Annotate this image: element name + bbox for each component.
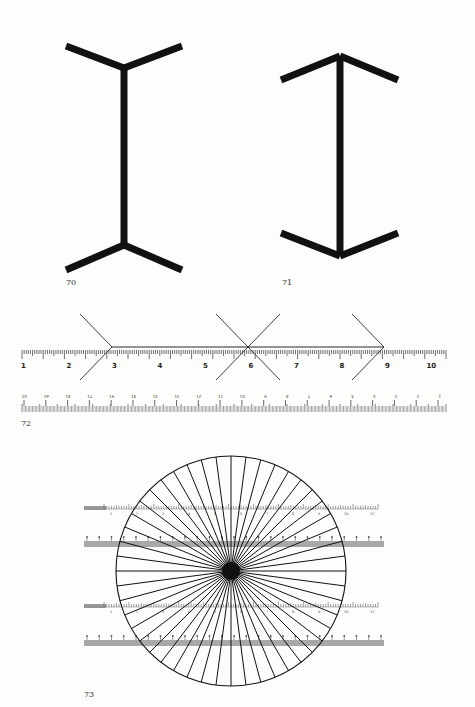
ruler-tick-dot <box>123 635 125 637</box>
ruler-tick-dot <box>160 635 162 637</box>
ruler-tick-dot <box>282 536 284 538</box>
ruler-tick-dot <box>307 635 309 637</box>
spoke-line <box>231 571 331 629</box>
ruler-label: 81 <box>65 394 71 399</box>
fin-line <box>248 314 280 347</box>
ruler-label: 3 <box>162 512 164 516</box>
ruler-label: 6 <box>329 394 332 399</box>
ruler-label: 9 <box>318 512 320 516</box>
ruler-tick-dot <box>380 536 382 538</box>
ruler-label: 2 <box>136 512 138 516</box>
fin-line <box>340 233 398 256</box>
ruler-tick-dot <box>86 635 88 637</box>
ruler-label: 6 <box>249 362 254 370</box>
ruler-tick-dot <box>343 635 345 637</box>
ruler-tick-dot <box>319 635 321 637</box>
fig73-figure: 12345678910111234567891011 <box>84 456 384 686</box>
ruler-tick-dot <box>356 635 358 637</box>
ruler-label: 7 <box>266 512 268 516</box>
fin-line <box>281 56 340 80</box>
spoke-line <box>174 471 232 571</box>
ruler-label: 10 <box>344 512 348 516</box>
ruler-tick-dot <box>135 536 137 538</box>
spoke-line <box>231 571 289 671</box>
ruler-tick-dot <box>86 536 88 538</box>
caption-fig73: 73 <box>84 690 94 699</box>
ruler-label: 3 <box>394 394 397 399</box>
fin-line <box>124 46 182 68</box>
ruler-label: 3 <box>112 362 117 370</box>
spoke-line <box>231 460 261 571</box>
spoke-line <box>201 460 231 571</box>
ruler-tick-dot <box>233 635 235 637</box>
fig70-figure <box>66 46 182 270</box>
fin-line <box>352 314 384 347</box>
ruler-label: 11 <box>370 610 374 614</box>
ruler-tick-dot <box>331 536 333 538</box>
ruler-label: 10 <box>427 362 437 370</box>
fin-line <box>66 245 124 270</box>
ruler-label: 4 <box>158 362 163 370</box>
ruler-label: 9 <box>264 394 267 399</box>
fin-line <box>281 233 340 256</box>
spoke-line <box>131 571 231 629</box>
ruler-tick-dot <box>233 536 235 538</box>
spoke-line <box>231 571 342 601</box>
ruler-tick-dot <box>111 635 113 637</box>
ruler-tick-dot <box>331 635 333 637</box>
ruler-label: 5 <box>203 362 208 370</box>
ruler-label: 6 <box>240 512 242 516</box>
ruler-tick-dot <box>319 536 321 538</box>
ruler-band <box>84 640 384 646</box>
ruler-label: 91 <box>109 394 115 399</box>
hub-dot <box>222 562 240 580</box>
ruler-label: 7 <box>294 362 299 370</box>
ruler-tick-dot <box>282 635 284 637</box>
fig71-figure <box>281 56 398 256</box>
ruler-tick-dot <box>184 635 186 637</box>
ruler-end-band <box>84 506 106 510</box>
ruler-tick-dot <box>123 536 125 538</box>
spoke-line <box>231 471 289 571</box>
ruler-tick-dot <box>98 536 100 538</box>
ruler-label: 21 <box>196 394 202 399</box>
ruler-tick-dot <box>160 536 162 538</box>
ruler-label: 02 <box>21 394 27 399</box>
ruler-tick-dot <box>209 635 211 637</box>
ruler-label: 2 <box>67 362 72 370</box>
ruler-label: 1 <box>21 362 26 370</box>
ruler-tick-dot <box>294 536 296 538</box>
illustration-canvas: 1234567891002618171915141312111019876543… <box>0 0 475 707</box>
fin-line <box>66 46 124 68</box>
ruler-tick-dot <box>307 536 309 538</box>
caption-fig72: 72 <box>21 419 31 428</box>
ruler-label: 1 <box>110 512 112 516</box>
ruler-tick-dot <box>172 635 174 637</box>
ruler-label: 71 <box>87 394 93 399</box>
ruler-tick-dot <box>368 635 370 637</box>
ruler-tick-dot <box>368 536 370 538</box>
ruler-label: 8 <box>285 394 288 399</box>
ruler-tick-dot <box>270 536 272 538</box>
ruler-label: 11 <box>218 394 224 399</box>
ruler-tick-dot <box>245 635 247 637</box>
ruler-label: 9 <box>318 610 320 614</box>
caption-fig70: 70 <box>66 278 76 287</box>
ruler-label: 51 <box>130 394 136 399</box>
spoke-line <box>231 490 312 571</box>
ruler-label: 61 <box>43 394 49 399</box>
ruler-label: 1 <box>438 394 441 399</box>
ruler-label: 9 <box>385 362 390 370</box>
spoke-line <box>174 571 232 671</box>
fig72-figure: 1234567891002618171915141312111019876543… <box>21 314 446 412</box>
ruler-label: 8 <box>292 512 294 516</box>
spoke-line <box>150 490 231 571</box>
ruler-end-band <box>84 604 106 608</box>
ruler-tick-dot <box>209 536 211 538</box>
ruler-tick-dot <box>98 635 100 637</box>
ruler-label: 8 <box>292 610 294 614</box>
ruler-tick-dot <box>380 635 382 637</box>
caption-fig71: 71 <box>282 278 292 287</box>
ruler-label: 11 <box>370 512 374 516</box>
ruler-tick-dot <box>111 536 113 538</box>
